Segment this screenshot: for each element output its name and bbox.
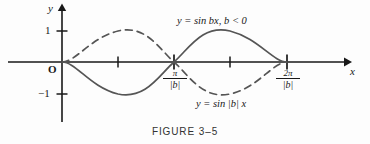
x-tick-label-pi-numerator: π [163, 68, 187, 78]
y-axis-arrowhead [58, 4, 66, 12]
x-axis-label: x [350, 66, 355, 77]
figure-caption: FIGURE 3–5 [0, 126, 370, 137]
x-tick-label-two-pi-over-abs-b: 2π |b| [276, 68, 300, 90]
x-tick-label-pi-over-abs-b: π |b| [163, 68, 187, 90]
y-tick-label-negative-one: −1 [38, 88, 50, 99]
x-tick-label-pi-denominator: |b| [163, 78, 187, 90]
annotation-dashed-curve-equation: y = sin |b| x [196, 99, 246, 110]
x-tick-label-two-pi-numerator: 2π [276, 68, 300, 78]
origin-label: O [48, 64, 57, 75]
x-tick-label-two-pi-denominator: |b| [276, 78, 300, 90]
y-tick-label-positive-one: 1 [45, 25, 51, 36]
figure-container: y x O 1 −1 π |b| 2π |b| y = sin bx, b < … [0, 0, 370, 144]
y-axis-label: y [48, 3, 53, 14]
annotation-solid-curve-equation: y = sin bx, b < 0 [177, 16, 247, 27]
